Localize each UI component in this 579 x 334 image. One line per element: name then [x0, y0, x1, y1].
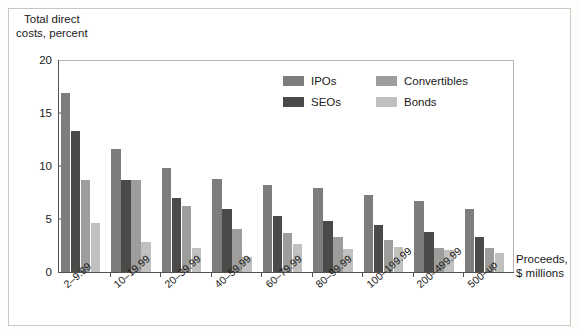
- legend-swatch-icon: [376, 97, 397, 107]
- legend-item-seos[interactable]: SEOs: [283, 96, 376, 108]
- legend-row: SEOsBonds: [283, 93, 473, 110]
- y-axis-tick-label: 15: [39, 107, 59, 119]
- legend-label: Convertibles: [404, 75, 468, 87]
- bar-seos-4: [222, 209, 231, 272]
- legend-label: IPOs: [311, 75, 337, 87]
- legend-item-bonds[interactable]: Bonds: [376, 96, 469, 108]
- bar-ipos-4: [212, 179, 221, 272]
- x-axis-tick-mark: [110, 272, 111, 277]
- y-axis-tick-label: 10: [39, 160, 59, 172]
- bar-bonds-1: [91, 223, 100, 272]
- x-axis-tick-mark: [312, 272, 313, 277]
- legend-swatch-icon: [376, 76, 397, 86]
- x-axis-title: Proceeds, $ millions: [516, 253, 568, 280]
- legend-swatch-icon: [283, 97, 304, 107]
- x-axis-tick-mark: [160, 272, 161, 277]
- x-axis-tick-mark: [261, 272, 262, 277]
- x-axis-tick-mark: [362, 272, 363, 277]
- legend-label: SEOs: [311, 96, 341, 108]
- y-axis-title-line1: Total direct: [24, 13, 80, 25]
- bar-seos-3: [172, 198, 181, 272]
- figure-canvas: Total direct costs, percent 05101520 2–9…: [0, 0, 579, 334]
- bar-group: [111, 60, 150, 272]
- x-axis-title-line1: Proceeds,: [516, 253, 568, 267]
- bar-seos-2: [121, 180, 130, 272]
- x-axis-tick-mark: [211, 272, 212, 277]
- bar-ipos-5: [263, 185, 272, 272]
- legend-item-ipos[interactable]: IPOs: [283, 75, 376, 87]
- y-axis-title: Total direct costs, percent: [24, 12, 154, 40]
- x-axis-title-line2: $ millions: [516, 267, 568, 281]
- y-axis-title-line2: costs, percent: [16, 26, 154, 40]
- bar-group: [61, 60, 100, 272]
- bar-group: [212, 60, 251, 272]
- x-axis-tick-mark: [463, 272, 464, 277]
- bar-ipos-1: [61, 93, 70, 272]
- bar-seos-5: [273, 216, 282, 272]
- legend-item-convertibles[interactable]: Convertibles: [376, 75, 469, 87]
- bar-seos-1: [71, 131, 80, 272]
- legend-row: IPOsConvertibles: [283, 72, 473, 89]
- y-axis-tick-label: 5: [46, 213, 59, 225]
- bar-ipos-3: [162, 168, 171, 272]
- bar-ipos-6: [313, 188, 322, 272]
- bar-ipos-8: [414, 201, 423, 272]
- bar-group: [162, 60, 201, 272]
- y-axis-tick-label: 0: [46, 266, 59, 278]
- bar-ipos-9: [465, 209, 474, 272]
- y-axis-tick-label: 20: [39, 54, 59, 66]
- bar-ipos-7: [364, 195, 373, 272]
- legend-label: Bonds: [404, 96, 437, 108]
- chart-legend: IPOsConvertiblesSEOsBonds: [283, 72, 473, 114]
- legend-swatch-icon: [283, 76, 304, 86]
- bar-ipos-2: [111, 149, 120, 272]
- x-axis-tick-mark: [413, 272, 414, 277]
- bar-convertibles-1: [81, 180, 90, 272]
